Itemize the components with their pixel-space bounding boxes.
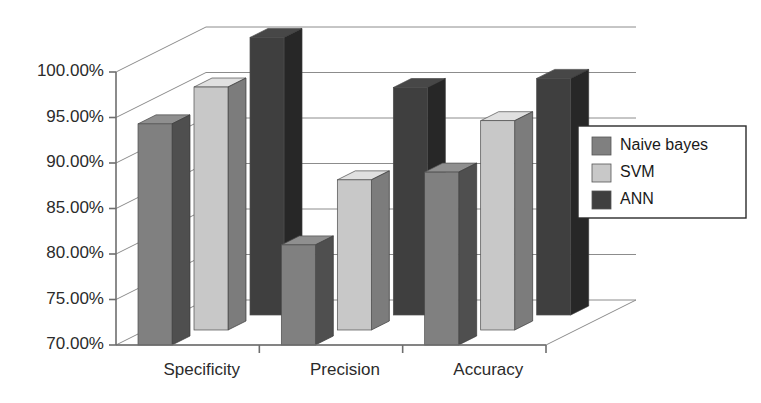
bar	[481, 112, 533, 330]
bar-front-face	[281, 245, 315, 345]
x-axis-category-label: Specificity	[163, 360, 240, 379]
bar-front-face	[250, 37, 284, 315]
bar-side-face	[515, 112, 533, 330]
legend-label: SVM	[620, 163, 655, 180]
legend-swatch	[592, 164, 611, 182]
bar-chart-3d: 100.00%95.00%90.00%85.00%80.00%75.00%70.…	[0, 0, 761, 403]
y-axis-tick-label: 85.00%	[46, 198, 104, 217]
gridline	[116, 27, 636, 72]
bar-side-face	[371, 171, 389, 330]
bar-front-face	[138, 124, 172, 345]
x-axis-category-label: Accuracy	[453, 360, 523, 379]
bar-front-face	[194, 87, 228, 330]
bar-side-face	[459, 163, 477, 345]
bars-group	[138, 28, 589, 345]
y-axis-tick-label: 75.00%	[46, 289, 104, 308]
y-axis-tick-label: 95.00%	[46, 107, 104, 126]
y-axis-tick-label: 70.00%	[46, 334, 104, 353]
y-axis-tick-label: 80.00%	[46, 243, 104, 262]
bar-front-face	[337, 180, 371, 330]
bar	[194, 78, 246, 330]
bar-front-face	[537, 78, 571, 315]
legend-swatch	[592, 191, 611, 209]
legend-swatch	[592, 137, 611, 155]
bar-front-face	[481, 121, 515, 330]
bar-side-face	[228, 78, 246, 330]
y-axis-labels: 100.00%95.00%90.00%85.00%80.00%75.00%70.…	[37, 61, 104, 353]
bar	[281, 236, 333, 345]
bar	[138, 115, 190, 345]
bar	[337, 171, 389, 330]
x-axis-labels: SpecificityPrecisionAccuracy	[163, 360, 523, 379]
legend-label: ANN	[620, 190, 654, 207]
bar-side-face	[172, 115, 190, 345]
bar	[425, 163, 477, 345]
bar-front-face	[425, 172, 459, 345]
x-axis-category-label: Precision	[310, 360, 380, 379]
y-axis-tick-label: 90.00%	[46, 152, 104, 171]
legend: Naive bayesSVMANN	[578, 126, 746, 218]
legend-label: Naive bayes	[620, 136, 708, 153]
bar-front-face	[393, 88, 427, 316]
y-axis-tick-label: 100.00%	[37, 61, 104, 80]
chart-container: 100.00%95.00%90.00%85.00%80.00%75.00%70.…	[0, 0, 761, 403]
bar-side-face	[315, 236, 333, 345]
